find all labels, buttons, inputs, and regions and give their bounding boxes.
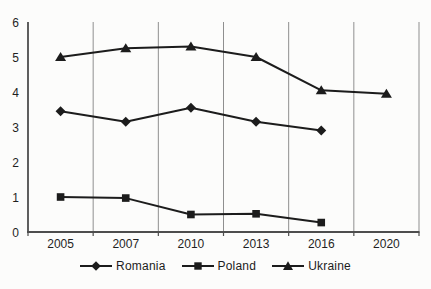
line-chart-plot: 0123456200520072010201320162020 [0, 0, 431, 252]
y-tick-label: 3 [12, 121, 19, 135]
x-tick-label: 2010 [178, 237, 205, 251]
marker-romania [186, 103, 196, 113]
y-tick-label: 1 [12, 191, 19, 205]
legend-item-romania: Romania [80, 259, 165, 273]
marker-romania [121, 117, 131, 127]
triangle-legend-marker-icon [272, 260, 304, 272]
legend-item-poland: Poland [182, 259, 257, 273]
marker-poland [317, 219, 325, 227]
legend-label: Romania [116, 259, 165, 273]
y-tick-label: 4 [12, 86, 19, 100]
x-tick-label: 2005 [47, 237, 74, 251]
marker-poland [187, 211, 195, 219]
marker-romania [316, 126, 326, 136]
x-tick-label: 2007 [112, 237, 139, 251]
y-tick-label: 6 [12, 16, 19, 30]
x-tick-label: 2020 [373, 237, 400, 251]
line-chart-figure: 0123456200520072010201320162020 RomaniaP… [0, 0, 431, 289]
marker-poland [57, 193, 65, 201]
marker-romania [56, 106, 66, 116]
marker-poland [252, 210, 260, 218]
chart-legend: RomaniaPolandUkraine [0, 259, 431, 273]
y-tick-label: 2 [12, 156, 19, 170]
y-tick-label: 5 [12, 51, 19, 65]
legend-label: Poland [218, 259, 257, 273]
square-legend-marker-icon [182, 260, 214, 272]
marker-romania [251, 117, 261, 127]
x-tick-label: 2016 [308, 237, 335, 251]
marker-poland [122, 194, 130, 202]
x-tick-label: 2013 [243, 237, 270, 251]
diamond-legend-marker-icon [80, 260, 112, 272]
legend-label: Ukraine [308, 259, 351, 273]
series-line-poland [61, 197, 322, 223]
legend-item-ukraine: Ukraine [272, 259, 351, 273]
y-tick-label: 0 [12, 226, 19, 240]
